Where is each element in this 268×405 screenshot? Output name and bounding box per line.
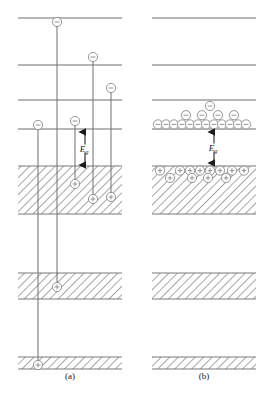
band-gap-label-sub-b: g xyxy=(214,147,218,154)
valence-band-a xyxy=(18,166,122,214)
inner-band-1-b xyxy=(152,273,256,299)
panel-a: Eg xyxy=(18,17,122,369)
band-gap-label-b: Eg xyxy=(208,143,219,154)
figure-canvas: EgEg xyxy=(0,0,268,405)
panel-b-caption: (b) xyxy=(179,371,229,381)
panel-b: Eg xyxy=(152,18,256,369)
energy-band-figure: EgEg (a) (b) xyxy=(0,0,268,405)
band-gap-label-a: Eg xyxy=(79,144,90,155)
panel-a-caption: (a) xyxy=(45,371,95,381)
inner-band-1-a xyxy=(18,273,122,299)
band-gap-label-sub-a: g xyxy=(85,148,89,155)
core-band-b xyxy=(152,357,256,369)
